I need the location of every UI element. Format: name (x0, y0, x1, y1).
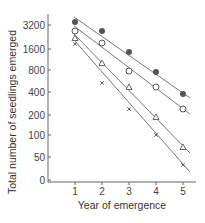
open-circle-marker (72, 28, 78, 34)
open-circle-marker (153, 84, 159, 90)
open-circle-marker (99, 40, 105, 46)
series-cross (73, 40, 190, 172)
y-tick-label: 50 (34, 152, 46, 163)
open-circle-marker (126, 68, 132, 74)
triangle-marker (153, 114, 159, 120)
fit-line (74, 40, 190, 172)
x-tick-label: 2 (99, 186, 105, 197)
x-tick-label: 1 (72, 186, 78, 197)
x-tick-label: 5 (180, 186, 186, 197)
triangle-marker (180, 144, 186, 150)
cross-marker (100, 81, 104, 85)
y-tick-label: 200 (28, 110, 45, 121)
cross-marker (127, 107, 131, 111)
cross-marker (73, 42, 77, 46)
fit-line (74, 34, 190, 153)
y-tick-label: 400 (28, 87, 45, 98)
seedling-emergence-chart: 32001600800400200100500 12345 Year of em… (0, 0, 205, 223)
y-tick-label: 0 (39, 175, 45, 186)
x-tick-label: 4 (153, 186, 159, 197)
y-ticks: 32001600800400200100500 (23, 20, 51, 186)
y-tick-label: 1600 (23, 44, 46, 55)
axes (48, 14, 196, 182)
x-ticks: 12345 (72, 182, 186, 197)
x-axis-title: Year of emergence (78, 199, 166, 211)
y-axis-title: Total number of seedlings emerged (6, 30, 18, 194)
triangle-marker (126, 84, 132, 90)
data-series (72, 17, 190, 172)
y-tick-label: 100 (28, 130, 45, 141)
filled-circle-marker (72, 19, 78, 25)
filled-circle-marker (153, 69, 159, 75)
y-tick-label: 3200 (23, 20, 46, 31)
fit-line (74, 17, 190, 98)
filled-circle-marker (180, 91, 186, 97)
filled-circle-marker (99, 28, 105, 34)
series-open (72, 26, 190, 114)
open-circle-marker (180, 106, 186, 112)
x-tick-label: 3 (126, 186, 132, 197)
y-tick-label: 800 (28, 65, 45, 76)
filled-circle-marker (126, 49, 132, 55)
